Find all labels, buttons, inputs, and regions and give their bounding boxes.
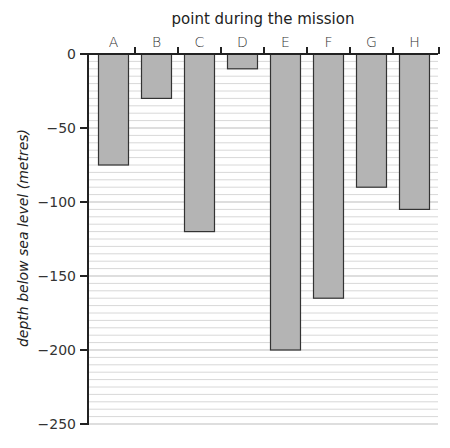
bar-f (314, 54, 344, 298)
bar-h (400, 54, 430, 209)
category-label: D (237, 34, 248, 50)
chart-title: point during the mission (172, 10, 355, 28)
bar-e (271, 54, 301, 350)
y-tick-label: −50 (46, 120, 76, 136)
bar-d (228, 54, 258, 69)
y-tick-label: 0 (67, 46, 76, 62)
bar-c (185, 54, 215, 232)
y-tick-label: −250 (38, 416, 76, 432)
category-label: C (195, 34, 205, 50)
y-tick-label: −150 (38, 268, 76, 284)
y-tick-label: −100 (38, 194, 76, 210)
bar-g (357, 54, 387, 187)
bar-b (142, 54, 172, 98)
category-label: G (366, 34, 377, 50)
category-label: F (324, 34, 332, 50)
category-label: B (152, 34, 161, 50)
category-label: E (281, 34, 290, 50)
y-tick-labels: 0−50−100−150−200−250 (38, 46, 76, 432)
category-label: H (409, 34, 420, 50)
bar-a (99, 54, 129, 165)
y-tick-label: −200 (38, 342, 76, 358)
category-label: A (109, 34, 119, 50)
bar-chart: point during the mission depth below sea… (0, 0, 450, 448)
y-axis-label: depth below sea level (metres) (15, 129, 31, 347)
